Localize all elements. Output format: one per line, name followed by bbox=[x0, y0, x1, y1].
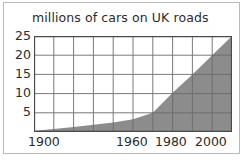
plot-area bbox=[34, 36, 232, 132]
y-tick-label-10: 10 bbox=[15, 87, 31, 100]
y-tick-label-5: 5 bbox=[23, 106, 31, 119]
y-tick-label-25: 25 bbox=[15, 30, 31, 43]
area-chart-svg bbox=[34, 36, 232, 132]
chart-frame: millions of cars on UK roads 25 20 15 10… bbox=[3, 2, 240, 154]
x-tick-label-1900: 1900 bbox=[28, 136, 60, 149]
x-tick-label-1960: 1960 bbox=[116, 136, 148, 149]
x-tick-label-2000: 2000 bbox=[195, 136, 227, 149]
x-axis-tick-labels: 1900 1960 1980 2000 bbox=[4, 136, 251, 156]
y-tick-label-15: 15 bbox=[15, 68, 31, 81]
x-tick-label-1980: 1980 bbox=[155, 136, 187, 149]
chart-title: millions of cars on UK roads bbox=[32, 10, 209, 25]
y-tick-label-20: 20 bbox=[15, 49, 31, 62]
